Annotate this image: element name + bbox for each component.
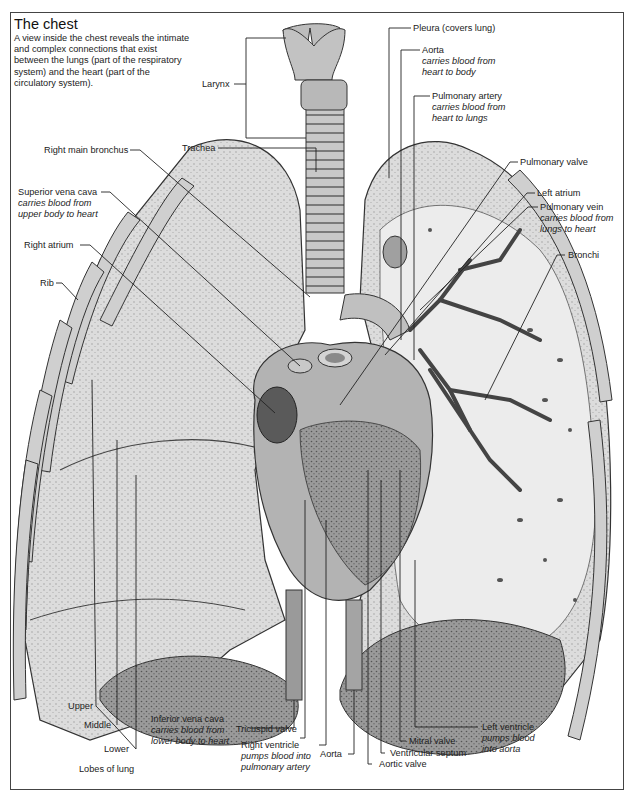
- label-lobe-middle: Middle: [84, 720, 111, 731]
- label-larynx: Larynx: [202, 79, 230, 90]
- label-pulmonary-artery: Pulmonary artery carries blood from hear…: [432, 91, 506, 124]
- label-superior-vena-cava-name: Superior vena cava: [18, 187, 97, 197]
- label-aorta-bottom: Aorta: [320, 749, 342, 760]
- label-inferior-vena-cava: Inferior vena cava carries blood from lo…: [151, 714, 229, 747]
- label-aorta-top-name: Aorta: [422, 45, 444, 55]
- label-pulmonary-artery-desc2: heart to lungs: [432, 113, 506, 124]
- label-right-ventricle: Right ventricle pumps blood into pulmona…: [241, 740, 311, 773]
- label-aorta-top-desc2: heart to body: [422, 67, 496, 78]
- label-rib: Rib: [40, 278, 54, 289]
- label-lobe-lower: Lower: [104, 744, 129, 755]
- label-ventricular-septum: Ventricular septum: [390, 748, 466, 759]
- label-pulmonary-vein-desc2: lungs to heart: [540, 224, 614, 235]
- label-lobes-of-lung: Lobes of lung: [79, 764, 134, 775]
- label-right-ventricle-desc1: pumps blood into: [241, 751, 311, 762]
- label-trachea: Trachea: [182, 143, 215, 154]
- label-superior-vena-cava-desc2: upper body to heart: [18, 209, 98, 220]
- descending-aorta-shape: [346, 600, 362, 690]
- label-pulmonary-artery-desc1: carries blood from: [432, 102, 506, 113]
- label-inferior-vena-cava-desc1: carries blood from: [151, 725, 229, 736]
- label-aorta-top-desc1: carries blood from: [422, 56, 496, 67]
- label-mitral-valve: Mitral valve: [409, 736, 455, 747]
- label-pulmonary-vein-name: Pulmonary vein: [540, 202, 603, 212]
- label-left-ventricle-desc1: pumps blood: [482, 733, 535, 744]
- label-superior-vena-cava-desc1: carries blood from: [18, 198, 98, 209]
- label-left-ventricle-name: Left ventricle: [482, 722, 534, 732]
- label-right-main-bronchus: Right main bronchus: [44, 145, 128, 156]
- label-bronchi: Bronchi: [568, 250, 599, 261]
- label-aorta-top: Aorta carries blood from heart to body: [422, 45, 496, 78]
- inferior-vena-cava-shape: [286, 590, 302, 700]
- label-inferior-vena-cava-desc2: lower body to heart: [151, 736, 229, 747]
- label-superior-vena-cava: Superior vena cava carries blood from up…: [18, 187, 98, 220]
- label-lobe-upper: Upper: [68, 701, 93, 712]
- label-right-ventricle-desc2: pulmonary artery: [241, 762, 311, 773]
- intro-text: A view inside the chest reveals the inti…: [14, 33, 192, 89]
- chest-illustration: [0, 0, 636, 802]
- label-right-ventricle-name: Right ventricle: [241, 740, 299, 750]
- label-pulmonary-vein-desc1: carries blood from: [540, 213, 614, 224]
- label-pulmonary-vein: Pulmonary vein carries blood from lungs …: [540, 202, 614, 235]
- label-aortic-valve: Aortic valve: [379, 759, 427, 770]
- label-left-ventricle: Left ventricle pumps blood into aorta: [482, 722, 535, 755]
- label-left-atrium: Left atrium: [537, 188, 580, 199]
- trachea-shape: [306, 108, 344, 293]
- label-right-atrium: Right atrium: [24, 240, 74, 251]
- label-pleura: Pleura (covers lung): [413, 23, 495, 34]
- label-pulmonary-artery-name: Pulmonary artery: [432, 91, 502, 101]
- label-pulmonary-valve: Pulmonary valve: [520, 157, 588, 168]
- page-title: The chest: [14, 16, 78, 32]
- label-inferior-vena-cava-name: Inferior vena cava: [151, 714, 224, 724]
- label-tricuspid-valve: Tricuspid valve: [236, 724, 297, 735]
- label-left-ventricle-desc2: into aorta: [482, 744, 535, 755]
